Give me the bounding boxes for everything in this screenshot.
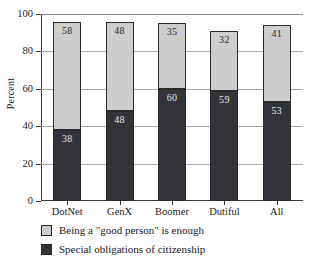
bar-segment-upper[interactable]: 48 bbox=[106, 22, 134, 112]
bar-segment-lower[interactable]: 38 bbox=[53, 130, 81, 201]
stacked-bar-chart: Percent 020406080100 3858484860355932534… bbox=[0, 0, 314, 265]
plot-area: 020406080100 38584848603559325341 bbox=[41, 14, 303, 201]
y-tick-mark bbox=[36, 14, 41, 15]
legend-item-label: Special obligations of citizenship bbox=[59, 244, 205, 255]
y-axis-line bbox=[41, 14, 42, 201]
y-tick-mark bbox=[36, 51, 41, 52]
bar-segment-lower[interactable]: 48 bbox=[106, 111, 134, 201]
bar-group[interactable]: 5341 bbox=[263, 14, 291, 201]
bar-group[interactable]: 3858 bbox=[53, 14, 81, 201]
bar-value-label: 48 bbox=[114, 112, 125, 125]
legend-item-special-obligations[interactable]: Special obligations of citizenship bbox=[41, 240, 205, 259]
bar-segment-lower[interactable]: 60 bbox=[158, 89, 186, 201]
x-tick-mark bbox=[224, 201, 225, 205]
y-tick-label: 20 bbox=[23, 158, 34, 169]
y-tick-label: 0 bbox=[28, 196, 33, 207]
x-tick-mark bbox=[67, 201, 68, 205]
legend-item-good-person[interactable]: Being a "good person" is enough bbox=[41, 221, 205, 240]
y-tick-mark bbox=[36, 164, 41, 165]
y-tick-label: 80 bbox=[23, 46, 34, 57]
y-tick-mark bbox=[36, 89, 41, 90]
bar-value-label: 32 bbox=[219, 32, 230, 45]
legend: Being a "good person" is enough Special … bbox=[41, 221, 205, 259]
y-tick-mark bbox=[36, 126, 41, 127]
x-tick-label: All bbox=[270, 206, 283, 217]
bar-value-label: 59 bbox=[219, 92, 230, 105]
x-tick-mark bbox=[172, 201, 173, 205]
bar-group[interactable]: 6035 bbox=[158, 14, 186, 201]
bar-segment-upper[interactable]: 32 bbox=[210, 31, 238, 91]
y-tick-mark bbox=[36, 201, 41, 202]
legend-swatch-icon-dark bbox=[41, 244, 52, 255]
bar-value-label: 41 bbox=[271, 26, 282, 39]
x-tick-label: GenX bbox=[107, 206, 132, 217]
bar-value-label: 53 bbox=[271, 103, 282, 116]
bar-segment-upper[interactable]: 41 bbox=[263, 25, 291, 102]
bar-group[interactable]: 4848 bbox=[106, 14, 134, 201]
bar-segment-lower[interactable]: 53 bbox=[263, 102, 291, 201]
bar-value-label: 35 bbox=[167, 24, 178, 37]
bar-value-label: 48 bbox=[114, 23, 125, 36]
bar-value-label: 58 bbox=[62, 23, 73, 36]
x-tick-label: Boomer bbox=[155, 206, 189, 217]
y-tick-label: 40 bbox=[23, 121, 34, 132]
y-tick-label: 60 bbox=[23, 84, 34, 95]
x-tick-mark bbox=[120, 201, 121, 205]
bar-group[interactable]: 5932 bbox=[210, 14, 238, 201]
y-tick-label: 100 bbox=[17, 9, 33, 20]
y-axis-title: Percent bbox=[5, 59, 16, 129]
x-tick-mark bbox=[277, 201, 278, 205]
bar-segment-upper[interactable]: 58 bbox=[53, 22, 81, 130]
bar-segment-upper[interactable]: 35 bbox=[158, 23, 186, 88]
legend-item-label: Being a "good person" is enough bbox=[59, 225, 204, 236]
legend-swatch-icon-light bbox=[41, 225, 52, 236]
bar-value-label: 60 bbox=[167, 90, 178, 103]
bar-value-label: 38 bbox=[62, 131, 73, 144]
bar-segment-lower[interactable]: 59 bbox=[210, 91, 238, 201]
x-tick-label: Dutiful bbox=[209, 206, 239, 217]
x-tick-label: DotNet bbox=[52, 206, 83, 217]
